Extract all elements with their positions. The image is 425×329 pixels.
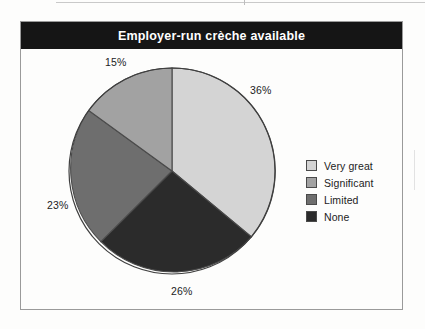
- legend-item-very-great[interactable]: Very great: [306, 157, 396, 174]
- pie-svg: [68, 67, 276, 275]
- legend-swatch-significant: [306, 177, 317, 188]
- legend-label-none: None: [324, 211, 350, 223]
- chart-title-bar: Employer-run crèche available: [21, 22, 402, 49]
- legend-swatch-very-great: [306, 160, 317, 171]
- data-label-none: 26%: [171, 285, 193, 297]
- legend-swatch-none: [306, 211, 317, 222]
- legend-swatch-limited: [306, 194, 317, 205]
- data-label-very-great: 36%: [250, 84, 272, 96]
- page-title: Employer-run crèche available: [118, 29, 305, 43]
- legend-item-significant[interactable]: Significant: [306, 174, 396, 191]
- legend-label-significant: Significant: [324, 177, 374, 189]
- scan-artifact-tick: [244, 0, 245, 5]
- pie-chart: [68, 67, 276, 275]
- legend-label-limited: Limited: [324, 194, 359, 206]
- scan-artifact-line: [56, 2, 425, 3]
- scan-artifact-edge: [414, 150, 415, 190]
- chart-screenshot: Employer-run crèche available 36% 26% 23…: [0, 0, 425, 329]
- data-label-significant: 15%: [105, 56, 127, 68]
- legend-item-limited[interactable]: Limited: [306, 191, 396, 208]
- legend-item-none[interactable]: None: [306, 208, 396, 225]
- data-label-limited: 23%: [47, 199, 69, 211]
- legend: Very great Significant Limited None: [306, 157, 396, 225]
- legend-label-very-great: Very great: [324, 160, 373, 172]
